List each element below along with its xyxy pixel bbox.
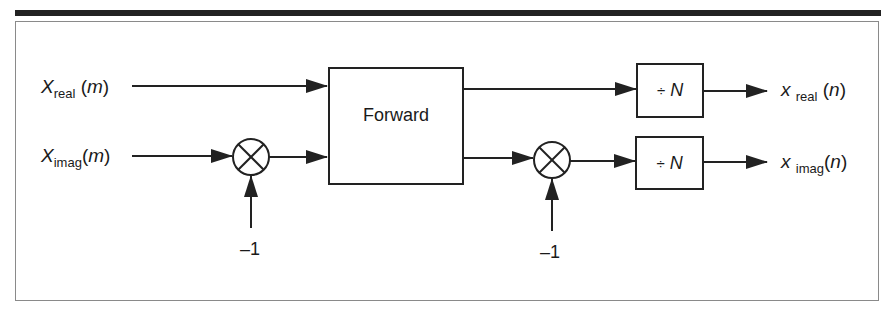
multiplier-1-icon xyxy=(233,139,269,175)
forward-block xyxy=(329,68,463,184)
input-label-real: Xreal (m) xyxy=(41,77,109,100)
divide-label-real: ÷ N xyxy=(637,81,703,99)
forward-block-label: Forward xyxy=(329,106,463,124)
block-diagram xyxy=(0,0,887,310)
input-label-imag: Ximag(m) xyxy=(41,146,110,169)
output-label-imag: x imag(n) xyxy=(781,152,847,175)
neg-one-label-2: –1 xyxy=(540,243,560,261)
output-label-real: x real (n) xyxy=(781,80,846,103)
multiplier-2-icon xyxy=(534,142,570,178)
divide-label-imag: ÷ N xyxy=(636,154,703,172)
neg-one-label-1: –1 xyxy=(240,240,260,258)
